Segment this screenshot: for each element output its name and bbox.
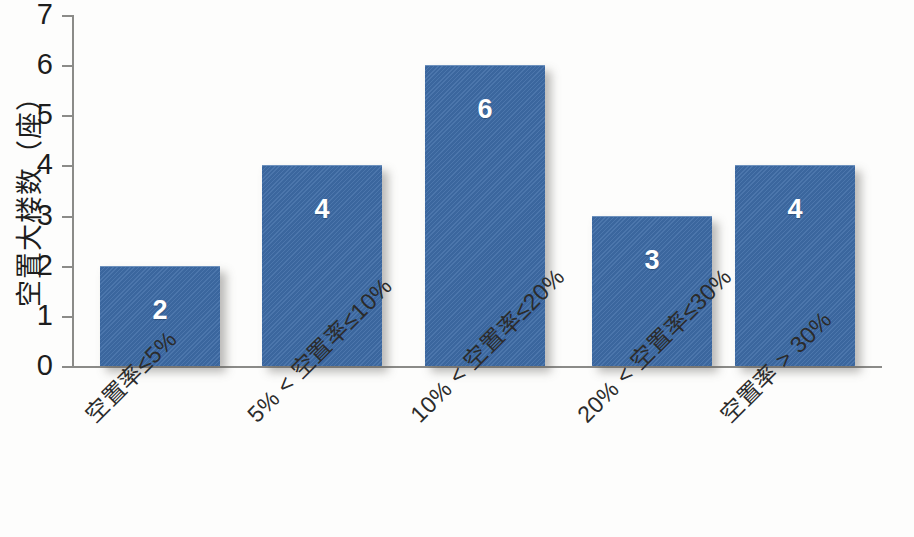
bar-value-label: 4 [262,196,382,223]
bar-value-label: 6 [425,96,545,123]
bar-value-label: 4 [735,196,855,223]
bar-value-label: 3 [592,247,712,274]
plot-area: 24634 [0,0,914,368]
chart-figure: 空置大楼数（座） 01234567 24634 空置率≤5%5% < 空置率≤1… [0,0,914,537]
bar-value-label: 2 [100,297,220,324]
